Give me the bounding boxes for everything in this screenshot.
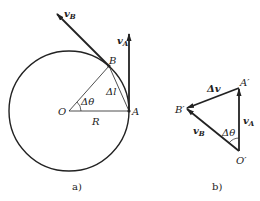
label-vA-b: vA — [243, 115, 255, 128]
label-A-prime: A′ — [239, 77, 250, 88]
point-A — [127, 109, 130, 112]
label-delta-theta-b: Δθ — [221, 127, 235, 138]
label-delta-v: Δv — [206, 83, 221, 94]
label-delta-theta-a: Δθ — [80, 96, 94, 107]
label-vB: vB — [64, 8, 76, 21]
label-B-prime: B′ — [174, 104, 185, 115]
angle-arc-b — [229, 138, 239, 143]
label-B: B — [108, 55, 116, 66]
label-vB-b: vB — [193, 125, 205, 138]
velocity-vB-arrow — [57, 14, 109, 66]
caption-a: a) — [72, 181, 82, 192]
label-R: R — [91, 116, 100, 127]
label-O-prime: O′ — [236, 155, 247, 166]
label-A: A — [131, 106, 139, 117]
label-vA: vA — [117, 35, 129, 48]
figure-b: Δv A′ B′ O′ vA vB Δθ b) — [174, 77, 255, 192]
label-O: O — [58, 106, 66, 117]
figure-a: vB vA B A O R Δθ Δl a) — [9, 8, 139, 192]
label-delta-l: Δl — [105, 86, 116, 97]
caption-b: b) — [212, 181, 222, 192]
kinematics-diagram: vB vA B A O R Δθ Δl a) Δv A′ B′ O′ vA vB… — [0, 0, 260, 201]
